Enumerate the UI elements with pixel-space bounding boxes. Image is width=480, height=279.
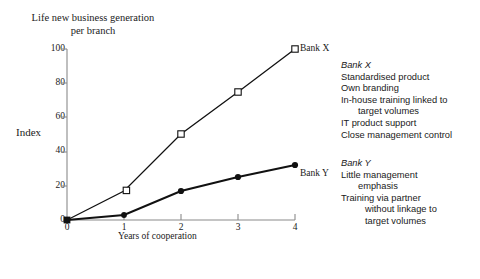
annotation-bank-x-heading: Bank X [341,60,452,72]
annotation-bank-x-line-6: Close management control [341,130,452,142]
y-tick-marks [61,49,67,186]
annotation-bank-y-line-3: Training via partner [341,193,437,205]
annotation-bank-x-line-3: In-house training linked to [341,95,452,107]
annotation-bank-y: Bank Y Little management emphasis Traini… [341,158,437,228]
annotation-bank-y-line-4: without linkage to [341,204,437,216]
series-tag-bank-y: Bank Y [300,168,329,178]
figure-caption [84,268,374,279]
marker-bank-x-y4 [292,46,298,52]
annotation-bank-x-line-4: target volumes [341,106,452,118]
marker-bank-x-y1 [123,187,129,193]
figure-root: Life new business generation per branch … [0,0,480,279]
annotation-bank-y-line-2: emphasis [341,181,437,193]
marker-bank-y-y1 [121,212,127,218]
marker-origin [64,217,71,224]
annotation-bank-y-heading: Bank Y [341,158,437,170]
annotation-bank-y-line-5: target volumes [341,216,437,228]
annotation-bank-x: Bank X Standardised product Own branding… [341,60,452,141]
marker-bank-x-y2 [178,131,184,137]
series-markers-bank-x [123,46,298,194]
x-tick-marks [124,214,295,220]
series-tag-bank-x: Bank X [300,43,329,53]
annotation-bank-y-line-1: Little management [341,170,437,182]
marker-bank-y-y3 [235,174,241,180]
annotation-bank-x-line-5: IT product support [341,118,452,130]
marker-bank-y-y2 [178,188,184,194]
marker-bank-y-y4 [292,162,298,168]
marker-bank-x-y3 [235,89,241,95]
annotation-bank-x-line-2: Own branding [341,83,452,95]
annotation-bank-x-line-1: Standardised product [341,72,452,84]
